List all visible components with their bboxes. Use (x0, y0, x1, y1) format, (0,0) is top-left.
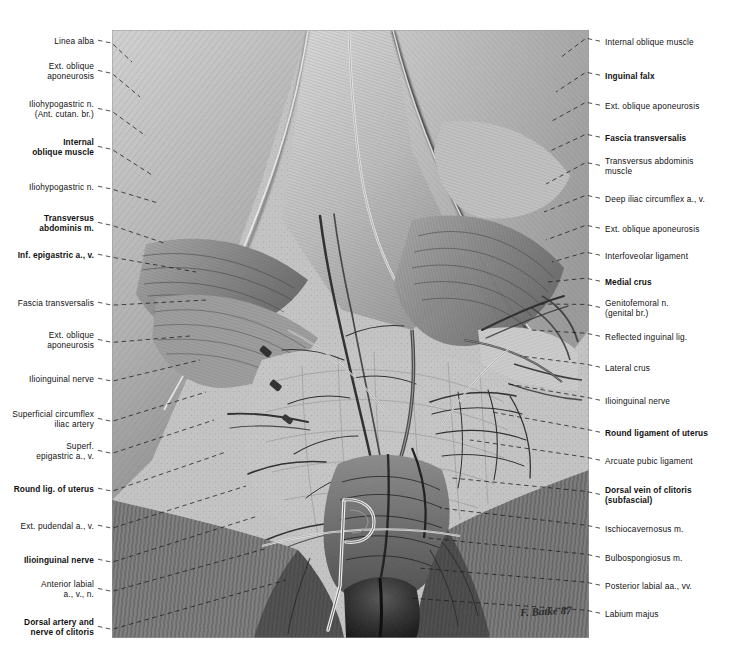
label-bulbospongiosus-m: Bulbospongiosus m. (605, 553, 682, 563)
label-ext-oblique-aponeurosis: Ext. oblique aponeurosis (47, 330, 94, 351)
label-iliohypogastric-n: Iliohypogastric n. (29, 182, 94, 192)
label-round-lig-of-uterus: Round lig. of uterus (14, 484, 94, 494)
label-round-ligament-of-uterus: Round ligament of uterus (605, 428, 708, 438)
label-ext-oblique-aponeurosis: Ext. oblique aponeurosis (47, 61, 94, 82)
label-reflected-inguinal-lig: Reflected inguinal lig. (605, 332, 687, 342)
label-genitofemoral-n-genital-br: Genitofemoral n. (genital br.) (605, 298, 669, 319)
label-ilioinguinal-nerve: Ilioinguinal nerve (605, 396, 670, 406)
label-internal-oblique-muscle: Internal oblique muscle (605, 37, 694, 47)
label-dorsal-artery-and-nerve-of-clitoris: Dorsal artery and nerve of clitoris (24, 617, 94, 638)
label-medial-crus: Medial crus (605, 277, 652, 287)
label-posterior-labial-aa-vv: Posterior labial aa., vv. (605, 581, 692, 591)
label-iliohypogastric-n-ant-cutan-br: Iliohypogastric n. (Ant. cutan. br.) (29, 99, 94, 120)
label-fascia-transversalis: Fascia transversalis (605, 133, 686, 143)
label-ext-pudendal-a-v: Ext. pudendal a., v. (21, 521, 94, 531)
label-superficial-circumflex-iliac-artery: Superficial circumflex iliac artery (12, 409, 94, 430)
label-labium-majus: Labium majus (605, 609, 658, 619)
label-superf-epigastric-a-v: Superf. epigastric a., v. (36, 441, 94, 462)
label-dorsal-vein-of-clitoris-subfascial: Dorsal vein of clitoris (subfascial) (605, 485, 692, 506)
label-anterior-labial-a-v-n: Anterior labial a., v., n. (41, 579, 94, 600)
label-inf-epigastric-a-v: Inf. epigastric a., v. (18, 250, 94, 260)
label-lateral-crus: Lateral crus (605, 363, 650, 373)
label-inguinal-falx: Inguinal falx (605, 71, 655, 81)
label-ischiocavernosus-m: Ischiocavernosus m. (605, 524, 683, 534)
label-ext-oblique-aponeurosis: Ext. oblique aponeurosis (605, 101, 699, 111)
anatomical-plate: F. Batke 87 Linea albaExt. oblique apone… (0, 0, 732, 671)
label-interfoveolar-ligament: Interfoveolar ligament (605, 251, 688, 261)
label-transversus-abdominis-muscle: Transversus abdominis muscle (605, 156, 694, 177)
anatomy-illustration: F. Batke 87 (112, 30, 589, 638)
label-linea-alba: Linea alba (54, 36, 94, 46)
label-internal-oblique-muscle: Internal oblique muscle (32, 137, 94, 158)
label-ilioinguinal-nerve: Ilioinguinal nerve (29, 374, 94, 384)
label-fascia-transversalis: Fascia transversalis (18, 298, 94, 308)
label-arcuate-pubic-ligament: Arcuate pubic ligament (605, 456, 693, 466)
label-ilioinguinal-nerve: Ilioinguinal nerve (24, 555, 94, 565)
label-deep-iliac-circumflex-a-v: Deep iliac circumflex a., v. (605, 194, 705, 204)
label-transversus-abdominis-m: Transversus abdominis m. (39, 213, 94, 234)
label-ext-oblique-aponeurosis: Ext. oblique aponeurosis (605, 224, 699, 234)
illustration-canvas (112, 30, 589, 638)
